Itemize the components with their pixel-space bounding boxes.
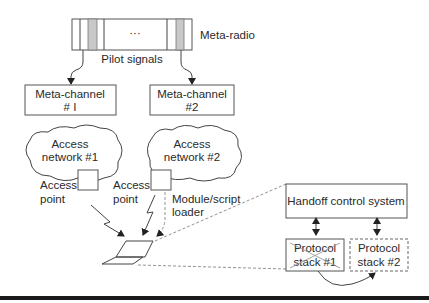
laptop-icon [102, 241, 153, 264]
diagram-canvas: ··· Meta-radio Pilot signals Meta-channe… [0, 0, 429, 303]
detail-callout-bottom [138, 265, 286, 269]
svg-text:# I: # I [64, 101, 77, 113]
stack-transfer-arrow [318, 271, 375, 285]
access-point-2-label: Access [113, 179, 150, 191]
meta-channel-2: Meta-channel #2 [150, 85, 234, 115]
svg-text:Protocol: Protocol [358, 242, 400, 254]
access-point-1 [78, 170, 98, 190]
module-loader-arrow [157, 192, 165, 236]
wireless-link-2 [143, 195, 155, 235]
svg-text:Access: Access [173, 138, 210, 150]
meta-radio-bar: ··· [72, 19, 192, 50]
svg-text:stack #1: stack #1 [294, 256, 337, 268]
meta-radio-ellipsis: ··· [129, 27, 141, 39]
meta-radio-label: Meta-radio [200, 29, 255, 41]
svg-text:point: point [113, 193, 139, 205]
access-point-2 [151, 170, 171, 190]
svg-text:network #2: network #2 [164, 151, 220, 163]
access-point-1-label: Access [40, 179, 77, 191]
svg-text:Meta-channel: Meta-channel [35, 88, 105, 100]
module-loader-label: Module/script [172, 193, 241, 205]
meta-channel-1: Meta-channel # I [25, 85, 116, 115]
protocol-stack-1: Protocol stack #1 [286, 239, 344, 271]
bottom-rule [0, 296, 429, 300]
pilot-signals-label: Pilot signals [101, 53, 163, 65]
svg-text:#2: #2 [186, 101, 199, 113]
pilot-slot-1 [88, 19, 97, 50]
svg-text:Access: Access [51, 138, 88, 150]
pilot-slot-2 [176, 19, 184, 50]
access-network-1-cloud: Access network #1 [26, 125, 122, 181]
svg-text:Handoff control system: Handoff control system [287, 195, 404, 207]
wireless-link-1 [91, 205, 124, 236]
pilot-arrow-2 [181, 50, 192, 84]
protocol-stack-2: Protocol stack #2 [350, 239, 408, 271]
svg-text:loader: loader [172, 206, 204, 218]
svg-text:point: point [40, 193, 66, 205]
svg-text:stack #2: stack #2 [358, 256, 401, 268]
handoff-control-system: Handoff control system [286, 184, 407, 218]
pilot-arrow-1 [71, 50, 83, 84]
svg-text:Meta-channel: Meta-channel [157, 88, 227, 100]
svg-text:network #1: network #1 [42, 151, 98, 163]
